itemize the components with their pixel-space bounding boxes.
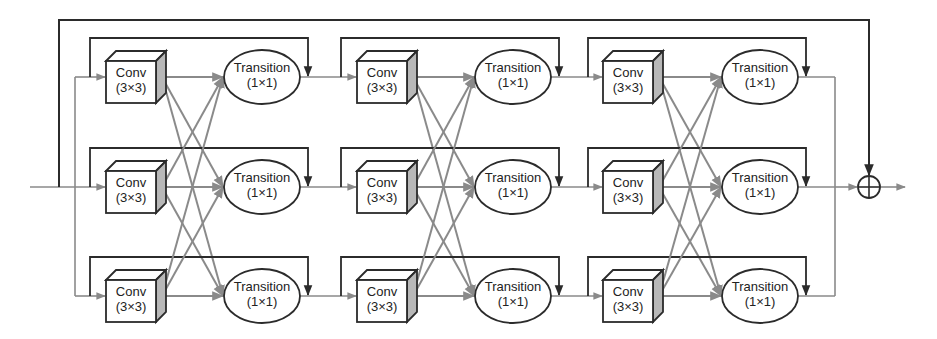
- transition-ellipse: [475, 160, 551, 214]
- conv-3x3-node: [106, 161, 166, 213]
- conv-3x3-node: [357, 270, 417, 322]
- transition-ellipse: [475, 269, 551, 323]
- conv-3x3-node: [106, 270, 166, 322]
- transition-ellipse: [224, 160, 300, 214]
- transition-1x1-node: [224, 160, 300, 214]
- sum-node: [858, 176, 880, 198]
- cube-front-face: [106, 61, 156, 103]
- transition-1x1-node: [475, 269, 551, 323]
- cube-front-face: [357, 280, 407, 322]
- conv-3x3-node: [357, 51, 417, 103]
- transition-1x1-node: [224, 50, 300, 104]
- transition-ellipse: [475, 50, 551, 104]
- cube-side-face: [653, 161, 663, 213]
- transition-1x1-node: [224, 269, 300, 323]
- transition-ellipse: [224, 50, 300, 104]
- cube-side-face: [407, 270, 417, 322]
- cube-front-face: [603, 280, 653, 322]
- cube-side-face: [407, 51, 417, 103]
- cube-front-face: [603, 61, 653, 103]
- cube-side-face: [156, 161, 166, 213]
- cube-front-face: [106, 171, 156, 213]
- conv-3x3-node: [603, 51, 663, 103]
- cube-side-face: [156, 270, 166, 322]
- cube-side-face: [653, 51, 663, 103]
- transition-1x1-node: [722, 160, 798, 214]
- cube-front-face: [106, 280, 156, 322]
- transition-ellipse: [722, 269, 798, 323]
- transition-ellipse: [224, 269, 300, 323]
- cube-front-face: [357, 61, 407, 103]
- transition-1x1-node: [722, 50, 798, 104]
- cube-front-face: [603, 171, 653, 213]
- cube-side-face: [407, 161, 417, 213]
- cube-front-face: [357, 171, 407, 213]
- cube-side-face: [156, 51, 166, 103]
- conv-3x3-node: [603, 270, 663, 322]
- conv-3x3-node: [106, 51, 166, 103]
- cube-side-face: [653, 270, 663, 322]
- transition-1x1-node: [475, 50, 551, 104]
- conv-3x3-node: [603, 161, 663, 213]
- conv-3x3-node: [357, 161, 417, 213]
- transition-ellipse: [722, 50, 798, 104]
- dense-multi-path-architecture-diagram: [0, 0, 937, 339]
- transition-ellipse: [722, 160, 798, 214]
- transition-1x1-node: [722, 269, 798, 323]
- transition-1x1-node: [475, 160, 551, 214]
